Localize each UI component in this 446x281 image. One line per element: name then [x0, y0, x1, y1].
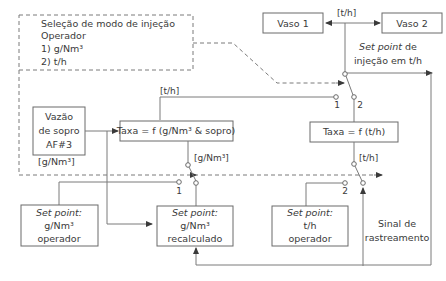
setpoint-injection-label-2: injeção em t/h — [354, 55, 422, 66]
switch-top-2: 2 — [357, 100, 363, 110]
mode-selection-text: Seleção de modo de injeção Operador 1) g… — [41, 18, 175, 67]
svg-text:de sopro: de sopro — [38, 125, 79, 136]
svg-text:Set point:: Set point: — [172, 207, 218, 218]
rate-th-label: Taxa = f (t/h) — [322, 126, 385, 137]
svg-text:operador: operador — [288, 233, 331, 244]
mode-dashed-line-upper — [193, 43, 342, 83]
injection-mode-diagram: Seleção de modo de injeção Operador 1) g… — [0, 0, 446, 281]
svg-text:[g/Nm³]: [g/Nm³] — [38, 156, 75, 167]
unit-gnm3-mid: [g/Nm³] — [194, 153, 229, 163]
vessel2-label: Vaso 2 — [396, 18, 427, 29]
rate-gnm3-label: Taxa = f (g/Nm³ & sopro) — [116, 125, 235, 136]
setpoint-injection-label: Set point de — [359, 41, 417, 52]
svg-text:Sinal de: Sinal de — [378, 218, 416, 229]
svg-text:recalculado: recalculado — [168, 233, 223, 244]
svg-text:Set point:: Set point: — [287, 207, 333, 218]
svg-text:1) g/Nm³: 1) g/Nm³ — [41, 43, 83, 54]
svg-text:g/Nm³: g/Nm³ — [180, 220, 210, 231]
tracking-signal-text: Sinal de rastreamento — [365, 218, 430, 243]
switch-top-1: 1 — [334, 100, 340, 110]
svg-text:rastreamento: rastreamento — [365, 232, 430, 243]
svg-text:operador: operador — [37, 233, 80, 244]
svg-text:g/Nm³: g/Nm³ — [44, 220, 74, 231]
svg-text:t/h: t/h — [304, 220, 317, 231]
unit-th-right: [t/h] — [359, 153, 378, 163]
svg-text:2) t/h: 2) t/h — [41, 56, 67, 67]
svg-text:Seleção de modo de injeção: Seleção de modo de injeção — [41, 18, 175, 29]
switch-right-2: 2 — [342, 186, 348, 196]
svg-text:Vazão: Vazão — [45, 111, 73, 122]
svg-text:Set point:: Set point: — [36, 207, 82, 218]
unit-th-mid: [t/h] — [160, 86, 179, 96]
top-unit-label: [t/h] — [337, 8, 356, 18]
svg-text:AF#3: AF#3 — [46, 139, 72, 150]
svg-text:Operador: Operador — [41, 30, 86, 41]
switch-left-1: 1 — [176, 186, 182, 196]
vessel1-label: Vaso 1 — [277, 18, 308, 29]
